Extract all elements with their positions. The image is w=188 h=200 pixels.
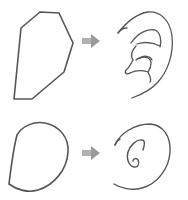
d-shape-oval-outline [9,123,68,192]
polygon-outline-shape [14,12,73,99]
right-arrow-icon [82,146,100,160]
right-arrow-icon [82,34,100,48]
diagram-svg [0,0,188,200]
diagram-canvas [0,0,188,200]
ear-drawing-shape [118,12,172,98]
spiral-ear-drawing-shape [114,124,170,189]
